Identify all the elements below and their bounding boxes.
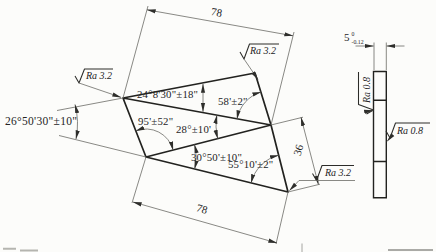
front-view: 78 78 36 24°8'30"±18" 58'±2" 95'±52" 28°… [5,5,355,244]
roughness-value: Ra 0.8 [361,77,372,104]
ext-a-up [123,6,148,98]
angle-label-28deg: 28°±10' [176,123,211,135]
angle-block-technical-drawing: 78 78 36 24°8'30"±18" 58'±2" 95'±52" 28°… [0,0,436,252]
dimension-bottom-length: 78 [133,201,277,243]
ext-ed-left [59,136,146,158]
angle-label-24deg: 24°8'30"±18" [137,88,198,100]
roughness-top-left: Ra 3.2 [75,69,121,97]
dim-bottom-value: 78 [195,201,209,216]
roughness-leader [244,59,258,80]
roughness-value: Ra 3.2 [324,167,351,178]
page-edge-fragments [3,244,433,252]
roughness-marks-front: Ra 3.2 Ra 3.2 Ra 3.2 [75,44,355,191]
thickness-tol-upper: 0 [352,31,355,37]
thickness-value: 5 [344,31,350,43]
roughness-value: Ra 0.8 [396,125,423,136]
angle-label-26deg50-overall: 26°50'30"±10" [5,115,77,127]
roughness-bottom-right: Ra 3.2 [290,166,356,191]
side-bar-outline [374,72,387,198]
dim-36-value: 36 [291,143,306,157]
ext-ba-left [57,98,123,111]
fragment-text-smudge [3,249,38,251]
ext-c-right [271,117,303,125]
dimension-top-length: 78 [147,5,293,36]
roughness-side-right: Ra 0.8 [386,123,430,141]
roughness-value: Ra 3.2 [249,45,276,56]
thickness-dim: 5 0 -0.12 [344,22,364,45]
dimension-thickness: 5 0 -0.12 [344,22,405,71]
dim-top-value: 78 [210,5,223,19]
ext-e-right [288,184,320,192]
roughness-side-left: Ra 0.8 [359,72,374,114]
side-view: 5 0 -0.12 Ra 0.8 Ra 0.8 [344,22,430,198]
angle-label-95min: 95'±52" [138,115,173,127]
ext-d-down [132,157,146,203]
angle-label-58min: 58'±2" [218,95,248,107]
thickness-tol-lower: -0.12 [352,39,364,45]
roughness-leader [79,83,121,97]
ext-e-down [276,192,288,244]
angle-label-55deg10: 55°10'±2" [228,158,273,170]
roughness-value: Ra 3.2 [85,70,112,81]
side-bar-divisions [374,100,387,161]
engineering-drawing-page: 78 78 36 24°8'30"±18" 58'±2" 95'±52" 28°… [0,0,436,252]
angle-arc-28deg [216,115,218,139]
dimension-right-height: 36 [291,117,318,184]
